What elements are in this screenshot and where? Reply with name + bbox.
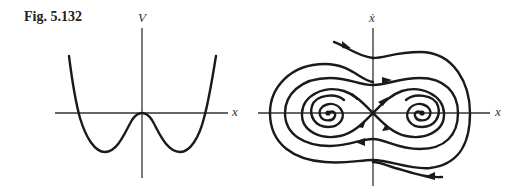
arrow-left-out xyxy=(358,120,366,128)
top-trajectory xyxy=(334,42,373,58)
figure-canvas xyxy=(0,0,523,196)
saddle-point xyxy=(371,111,376,116)
potential-plot xyxy=(55,28,228,178)
arrow-bottom-middle xyxy=(355,138,365,146)
phase-portrait xyxy=(258,28,490,186)
